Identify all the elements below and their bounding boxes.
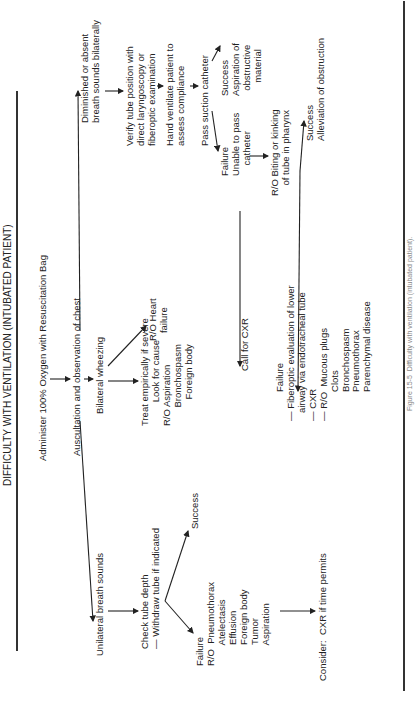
connector-arrows [0,0,420,711]
flowchart: DIFFICULTY WITH VENTILATION (INTUBATED P… [0,0,420,711]
